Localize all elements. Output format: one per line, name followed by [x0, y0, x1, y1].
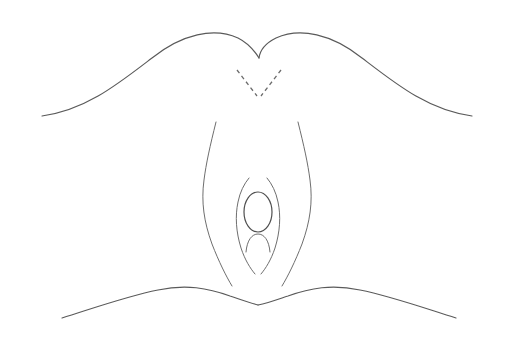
anatomical-line-diagram: Perineal anatomy line diagram with midli…: [0, 0, 514, 348]
figure-canvas: Perineal anatomy line diagram with midli…: [0, 0, 514, 348]
